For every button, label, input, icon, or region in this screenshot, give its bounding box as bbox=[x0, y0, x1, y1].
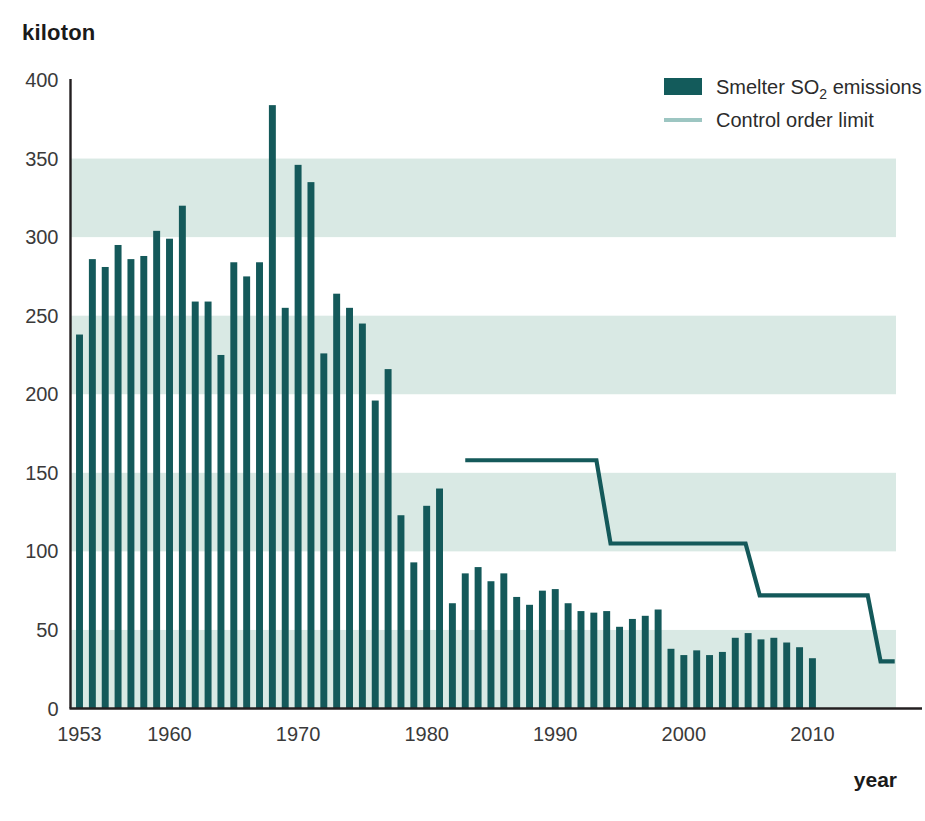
bar-1956 bbox=[115, 245, 122, 709]
x-tick-1953: 1953 bbox=[57, 723, 102, 745]
y-tick-0: 0 bbox=[47, 698, 58, 720]
bar-1972 bbox=[320, 353, 327, 708]
bar-1978 bbox=[397, 515, 404, 708]
bar-1955 bbox=[102, 267, 109, 709]
bar-1977 bbox=[385, 369, 392, 708]
legend-swatch-smelter-emissions bbox=[664, 78, 702, 95]
y-tick-300: 300 bbox=[25, 226, 58, 248]
bar-1996 bbox=[629, 619, 636, 709]
bar-1997 bbox=[642, 616, 649, 709]
bar-1970 bbox=[295, 165, 302, 709]
bar-1989 bbox=[539, 591, 546, 709]
bar-1968 bbox=[269, 105, 276, 708]
y-tick-350: 350 bbox=[25, 148, 58, 170]
bar-1993 bbox=[590, 613, 597, 709]
x-tick-2000: 2000 bbox=[662, 723, 707, 745]
bar-1960 bbox=[166, 239, 173, 709]
bar-1976 bbox=[372, 401, 379, 709]
y-tick-250: 250 bbox=[25, 305, 58, 327]
bar-1962 bbox=[192, 302, 199, 709]
bar-1984 bbox=[475, 567, 482, 708]
chart-container: kiloton year 050100150200250300350400 19… bbox=[0, 0, 925, 821]
bar-1957 bbox=[127, 259, 134, 708]
bar-2008 bbox=[783, 643, 790, 709]
bar-2007 bbox=[770, 638, 777, 709]
bar-2002 bbox=[706, 655, 713, 708]
bar-1959 bbox=[153, 231, 160, 709]
bar-2009 bbox=[796, 647, 803, 708]
bar-1985 bbox=[487, 581, 494, 708]
bar-1958 bbox=[140, 256, 147, 709]
x-tick-1970: 1970 bbox=[276, 723, 321, 745]
bar-1994 bbox=[603, 611, 610, 708]
bar-1980 bbox=[423, 506, 430, 709]
bar-1992 bbox=[578, 611, 585, 708]
y-tick-200: 200 bbox=[25, 383, 58, 405]
bar-1990 bbox=[552, 589, 559, 708]
bar-2010 bbox=[809, 658, 816, 708]
bar-1979 bbox=[410, 562, 417, 708]
bar-1981 bbox=[436, 489, 443, 709]
bar-2006 bbox=[758, 639, 765, 708]
bar-1967 bbox=[256, 262, 263, 708]
bar-2000 bbox=[680, 655, 687, 708]
bar-1973 bbox=[333, 294, 340, 709]
bar-1982 bbox=[449, 603, 456, 708]
bar-2004 bbox=[732, 638, 739, 709]
bar-1995 bbox=[616, 627, 623, 709]
y-tick-150: 150 bbox=[25, 462, 58, 484]
x-tick-1990: 1990 bbox=[533, 723, 578, 745]
bar-1974 bbox=[346, 308, 353, 709]
x-tick-2010: 2010 bbox=[790, 723, 835, 745]
x-tick-1960: 1960 bbox=[147, 723, 192, 745]
y-tick-100: 100 bbox=[25, 540, 58, 562]
bar-1988 bbox=[526, 605, 533, 709]
bar-1998 bbox=[655, 610, 662, 709]
bar-2005 bbox=[745, 633, 752, 708]
bar-1965 bbox=[230, 262, 237, 708]
bar-1991 bbox=[565, 603, 572, 708]
bar-2001 bbox=[693, 650, 700, 708]
bar-1999 bbox=[668, 649, 675, 709]
bar-1954 bbox=[89, 259, 96, 708]
y-tick-400: 400 bbox=[25, 69, 58, 91]
y-tick-label-layer: 050100150200250300350400 bbox=[25, 69, 58, 720]
x-tick-label-layer: 1953196019701980199020002010 bbox=[57, 723, 834, 745]
bar-2003 bbox=[719, 652, 726, 709]
bar-1975 bbox=[359, 324, 366, 709]
chart-band-3 bbox=[71, 159, 897, 238]
x-tick-1980: 1980 bbox=[404, 723, 449, 745]
chart-legend: Smelter SO2 emissionsControl order limit bbox=[664, 76, 922, 131]
bar-1986 bbox=[500, 573, 507, 708]
chart-plot-area: 050100150200250300350400 195319601970198… bbox=[0, 0, 925, 821]
bar-1971 bbox=[307, 182, 314, 708]
bar-1963 bbox=[205, 302, 212, 709]
y-tick-50: 50 bbox=[36, 619, 58, 641]
legend-label-control-order-limit: Control order limit bbox=[716, 109, 874, 131]
bar-1964 bbox=[217, 355, 224, 709]
legend-label-smelter-emissions: Smelter SO2 emissions bbox=[716, 76, 922, 102]
bar-1983 bbox=[462, 573, 469, 708]
bar-1953 bbox=[76, 335, 83, 709]
bar-1961 bbox=[179, 206, 186, 709]
bar-1966 bbox=[243, 276, 250, 708]
bar-1987 bbox=[513, 597, 520, 709]
bar-1969 bbox=[282, 308, 289, 709]
